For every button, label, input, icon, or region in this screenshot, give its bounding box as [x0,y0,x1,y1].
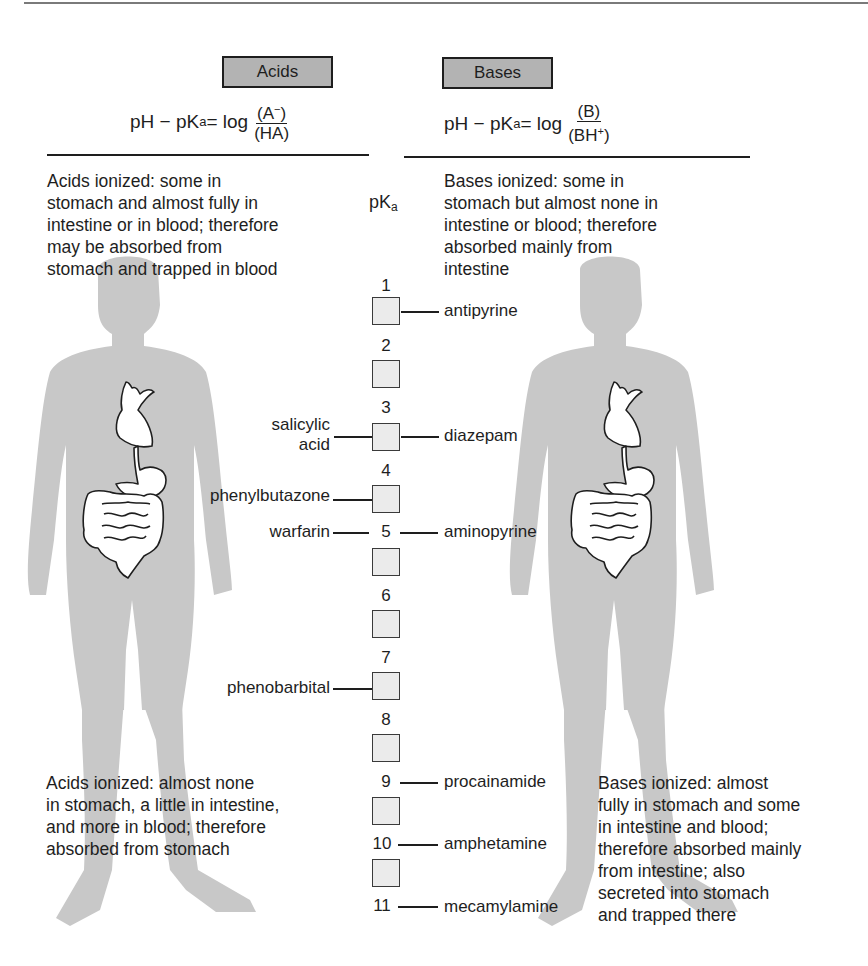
pka-tick-2: 2 [366,336,406,356]
eq-lhs: pH − pK [130,111,199,133]
top-border-rule [24,2,868,4]
pka-tick-11: 11 [362,896,402,916]
pka-tick-10: 10 [362,834,402,854]
acids-header-box: Acids [222,56,333,88]
connector-line [333,688,372,690]
heart-stomach-intestine-right-icon [568,380,678,580]
drug-label-aminopyrine: aminopyrine [444,522,537,542]
pka-tick-8: 8 [366,710,406,730]
pka-axis-title: pKa [369,192,398,214]
acids-header-label: Acids [257,62,299,82]
pka-title-text: pK [369,192,391,212]
pka-scale-box [372,297,400,325]
drug-label-amphetamine: amphetamine [444,834,547,854]
connector-line [398,906,438,908]
eq-lhs: pH − pK [444,113,513,135]
fraction-denominator: (HA) [254,124,289,143]
connector-line [401,436,439,438]
heart-stomach-intestine-left-icon [80,380,190,580]
drug-label-mecamylamine: mecamylamine [444,897,558,917]
drug-label-diazepam: diazepam [444,426,518,446]
drug-label-phenobarbital: phenobarbital [190,678,330,698]
drug-label-phenylbutazone: phenylbutazone [170,486,330,506]
bases-fraction: (B) (BH+) [568,102,609,145]
fraction-denominator: (BH+) [568,122,609,145]
acids-henderson-hasselbalch-equation: pH − pKa = log (A−) (HA) [130,100,289,143]
eq-mid: = log [520,113,562,135]
pka-scale-box [372,797,400,825]
bases-header-box: Bases [442,57,553,89]
num-text: (A [257,104,274,123]
pka-scale-box [372,423,400,451]
drug-label-antipyrine: antipyrine [444,301,518,321]
bases-high-pka-description: Bases ionized: almost fully in stomach a… [598,772,801,926]
den-text: (BH [568,126,597,145]
eq-subscript: a [199,114,206,129]
acids-high-pka-description: Acids ionized: almost none in stomach, a… [46,772,279,860]
pka-tick-3: 3 [366,398,406,418]
eq-mid: = log [206,111,248,133]
fraction-numerator: (B) [577,102,602,122]
pka-tick-7: 7 [366,648,406,668]
connector-line [333,499,372,501]
acids-fraction: (A−) (HA) [254,100,289,143]
bases-header-label: Bases [474,63,521,83]
acids-header-rule [47,154,369,156]
bases-header-rule [404,156,750,158]
pka-title-sub: a [391,200,398,214]
pka-scale-box [372,485,400,513]
connector-line [400,782,438,784]
pka-scale-box [372,859,400,887]
drug-label-salicylic-acid: salicylic acid [226,415,330,455]
pka-scale-box [372,672,400,700]
pka-scale-box [372,360,400,388]
pka-scale-box [372,734,400,762]
connector-line [398,844,438,846]
bases-low-pka-description: Bases ionized: some in stomach but almos… [444,170,658,280]
connector-line [333,532,369,534]
connector-line [401,311,439,313]
connector-line [334,436,372,438]
pka-scale-box [372,548,400,576]
pka-tick-1: 1 [366,276,406,296]
connector-line [400,532,438,534]
pka-scale-box [372,610,400,638]
bases-henderson-hasselbalch-equation: pH − pKa = log (B) (BH+) [444,102,610,145]
num-end: ) [281,104,287,123]
pka-tick-4: 4 [366,461,406,481]
eq-subscript: a [513,116,520,131]
drug-label-warfarin: warfarin [200,522,330,542]
pka-tick-6: 6 [366,586,406,606]
fraction-numerator: (A−) [256,100,287,124]
drug-label-procainamide: procainamide [444,772,546,792]
acids-low-pka-description: Acids ionized: some in stomach and almos… [47,170,279,280]
den-end: ) [604,126,610,145]
